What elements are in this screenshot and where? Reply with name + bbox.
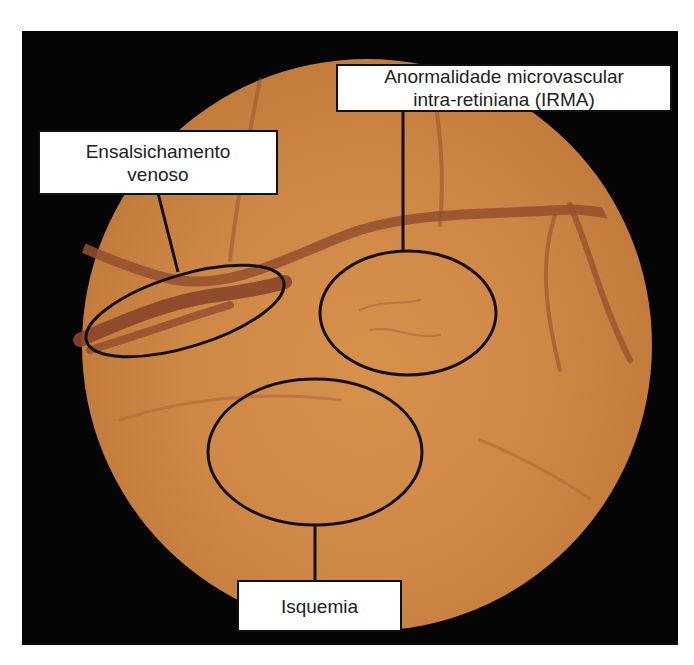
venous-beading-ellipse <box>76 246 294 375</box>
venous-beading-leader <box>158 193 178 272</box>
venous-beading-label: Ensalsichamento venoso <box>38 130 278 195</box>
irma-label-line-1: Anormalidade microvascular <box>384 65 624 88</box>
venous-beading-label-line-1: Ensalsichamento <box>86 140 231 163</box>
ischemia-ellipse <box>208 379 422 525</box>
irma-label: Anormalidade microvascular intra-retinia… <box>336 64 672 112</box>
ischemia-label: Isquemia <box>237 580 402 632</box>
irma-label-line-2: intra-retiniana (IRMA) <box>413 88 595 111</box>
venous-beading-label-line-2: venoso <box>127 163 188 186</box>
ischemia-label-line-1: Isquemia <box>281 595 358 618</box>
irma-ellipse <box>320 251 496 375</box>
